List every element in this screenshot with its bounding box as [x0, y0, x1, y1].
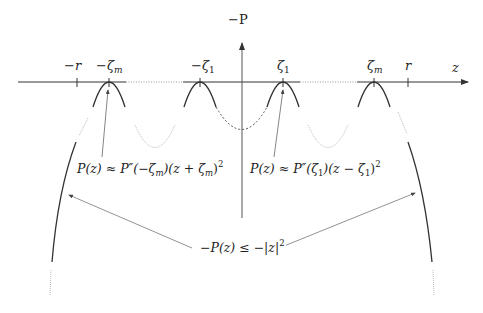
outer-bound-dotted-tails — [50, 270, 434, 295]
left-bound-curve — [52, 142, 76, 262]
diagram-canvas: −P z −r −ζm −ζ1 ζ1 ζm r P(z) ≈ P″(−ζm)(z… — [0, 0, 483, 313]
right-approx-formula: P(z) ≈ P″(ζ1)(z − ζ1)2 — [249, 159, 381, 178]
arrow-to-right-bound — [284, 193, 415, 246]
right-bound-curve — [408, 142, 432, 262]
tick-label-neg-zeta-m: −ζm — [96, 58, 123, 75]
tick-label-r: r — [405, 58, 412, 73]
arrow-to-neg-zeta-m — [102, 90, 108, 157]
arrow-to-left-bound — [69, 195, 192, 248]
tick-label-zeta-1: ζ1 — [277, 58, 290, 75]
tick-label-neg-zeta-1: −ζ1 — [191, 58, 215, 75]
vertical-axis-label: −P — [228, 12, 248, 27]
left-approx-formula: P(z) ≈ P″(−ζm)(z + ζm)2 — [76, 159, 223, 178]
horizontal-axis-label: z — [451, 60, 459, 75]
arrow-to-zeta-1 — [274, 90, 283, 157]
tick-label-neg-r: −r — [64, 58, 82, 73]
tick-label-zeta-m: ζm — [367, 58, 383, 75]
bound-formula: −P(z) ≤ −|z|2 — [200, 238, 285, 255]
